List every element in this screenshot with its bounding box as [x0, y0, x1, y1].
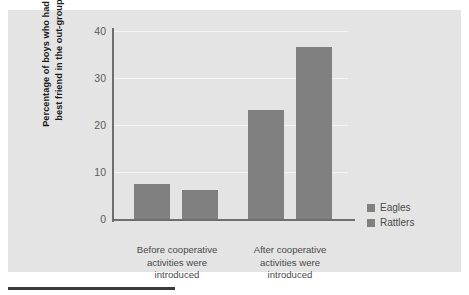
bar-rattlers-after[interactable]	[296, 47, 332, 219]
y-axis-title-line-1: Percentage of boys who had a	[41, 0, 51, 127]
category-1-line-3: introduced	[268, 269, 313, 280]
chart-figure: Percentage of boys who had a best friend…	[8, 10, 461, 272]
plot-area: Before cooperative activities were intro…	[112, 31, 348, 219]
legend-swatch-icon	[367, 219, 375, 227]
gridline-40	[114, 31, 348, 32]
y-axis-title: Percentage of boys who had a best friend…	[40, 0, 68, 140]
legend-label-rattlers: Rattlers	[380, 218, 414, 228]
chart-legend: Eagles Rattlers	[367, 201, 453, 231]
legend-label-eagles: Eagles	[380, 203, 411, 213]
y-tick-label-40: 40	[76, 26, 106, 37]
y-axis-tick-labels: 40 30 20 10 0	[74, 31, 106, 219]
y-tick-label-20: 20	[76, 120, 106, 131]
category-0-line-2: activities were	[147, 257, 207, 268]
bar-eagles-before[interactable]	[134, 184, 170, 219]
bottom-horizontal-rule	[8, 287, 175, 290]
x-axis-category-label-1: After cooperative activities were introd…	[221, 244, 359, 282]
bar-eagles-after[interactable]	[248, 110, 284, 219]
category-1-line-2: activities were	[260, 257, 320, 268]
legend-item-eagles[interactable]: Eagles	[367, 201, 453, 214]
category-0-line-1: Before cooperative	[137, 244, 218, 255]
x-axis-baseline	[112, 219, 355, 221]
legend-item-rattlers[interactable]: Rattlers	[367, 216, 453, 229]
bar-rattlers-before[interactable]	[182, 190, 218, 219]
category-0-line-3: introduced	[155, 269, 200, 280]
y-tick-label-30: 30	[76, 73, 106, 84]
y-axis-title-line-2: best friend in the out-group	[54, 0, 64, 121]
y-tick-label-10: 10	[76, 167, 106, 178]
y-tick-label-0: 0	[76, 214, 106, 225]
category-1-line-1: After cooperative	[254, 244, 327, 255]
legend-swatch-icon	[367, 204, 375, 212]
